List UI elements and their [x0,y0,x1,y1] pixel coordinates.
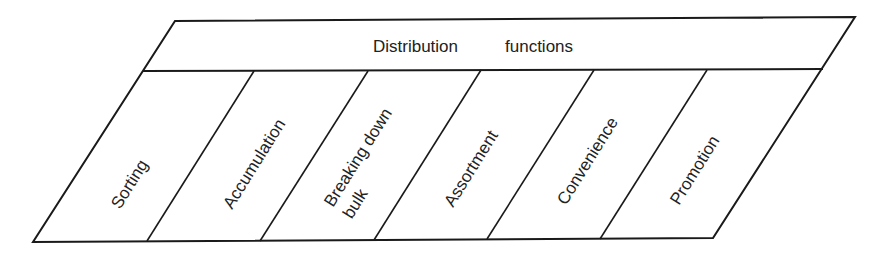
column-label: Convenience [553,114,622,208]
column-divider-5 [600,70,707,239]
column-accumulation: Accumulation [219,115,289,212]
column-assortment: Assortment [440,127,502,210]
header-divider [143,69,823,71]
column-sorting: Sorting [107,156,152,212]
column-divider-1 [147,71,254,241]
header-title-word1: Distribution [373,37,458,56]
column-label: Promotion [666,132,723,208]
distribution-functions-diagram: Distribution functions Sorting Accumulat… [0,0,891,263]
column-label: Assortment [440,127,502,210]
column-divider-4 [487,70,594,239]
column-convenience: Convenience [553,114,622,208]
header-title-word2: functions [505,37,573,56]
column-divider-3 [374,70,481,240]
column-promotion: Promotion [666,132,723,208]
column-label: Sorting [107,156,152,212]
column-breaking-down-bulk: Breaking down bulk [320,105,414,222]
column-label: Accumulation [219,115,289,212]
